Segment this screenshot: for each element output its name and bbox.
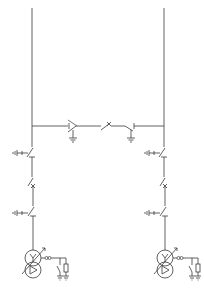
neutral-grounding	[41, 257, 69, 281]
feeder-right	[145, 126, 201, 280]
feeder-left	[13, 126, 69, 280]
earthing-switch-icon	[13, 210, 28, 216]
bus-tie-circuit-breaker[interactable]	[101, 122, 111, 130]
neutral-grounding	[173, 257, 201, 281]
regulating-transformer-icon	[154, 248, 177, 278]
earthing-switch-icon	[145, 210, 160, 216]
earthing-switch-icon	[13, 150, 28, 156]
earthing-switch-icon	[145, 150, 160, 156]
circuit-breaker-right[interactable]	[160, 178, 167, 188]
resistor-icon	[64, 264, 68, 272]
single-line-diagram	[0, 0, 204, 288]
earth-icon	[127, 130, 135, 142]
bus-tie	[32, 120, 164, 142]
disconnector-lower-right[interactable]	[160, 207, 168, 216]
disconnector-upper-left[interactable]	[27, 148, 35, 157]
bus-tie-disconnector-right[interactable]	[125, 123, 134, 131]
bus-tie-disconnector-left[interactable]	[68, 120, 77, 132]
circuit-breaker-left[interactable]	[28, 178, 35, 188]
resistor-icon	[196, 264, 200, 272]
earth-icon	[69, 130, 77, 142]
regulating-transformer-icon	[22, 248, 45, 278]
disconnector-lower-left[interactable]	[28, 207, 36, 216]
disconnector-upper-right[interactable]	[159, 148, 167, 157]
